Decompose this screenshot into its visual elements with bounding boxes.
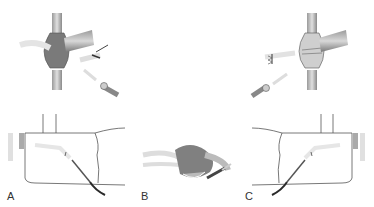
- panel-a-top-drawing: [20, 13, 118, 95]
- panel-c-top-drawing: [252, 13, 348, 96]
- panel-label-b: B: [141, 190, 148, 202]
- medical-illustration: A B C: [0, 0, 374, 207]
- panel-b-drawing: [143, 145, 231, 178]
- panel-a-bottom-drawing: [8, 114, 125, 195]
- panel-label-a: A: [7, 190, 14, 202]
- illustration-drawing: [0, 0, 374, 207]
- panel-c-bottom-drawing: [252, 114, 365, 195]
- panel-label-c: C: [245, 190, 253, 202]
